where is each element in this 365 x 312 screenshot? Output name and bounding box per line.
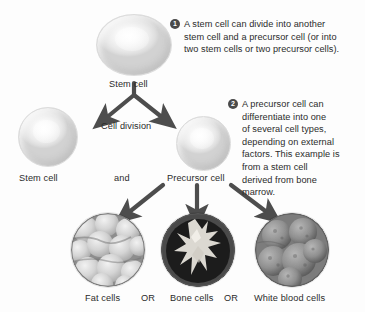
left-stem-cell-icon [18,107,78,167]
callout-2: 2 A precursor cell can differentiate int… [228,98,365,199]
callout-2-line-5: factors. This example is [242,148,365,161]
bone-cells-label: Bone cells [170,293,213,303]
callout-2-badge: 2 [228,99,238,109]
callout-2-line-3: of several cell types, [242,123,365,136]
top-stem-cell-label: Stem cell [109,79,148,89]
callout-1-badge: 1 [170,19,180,29]
callout-1-text: A stem cell can divide into another stem… [184,18,365,56]
callout-1-line-2: stem cell and a precursor cell (or into [184,31,365,44]
left-stem-cell-label: Stem cell [19,173,58,183]
callout-2-line-1: A precursor cell can [242,98,365,111]
cell-division-label: Cell division [101,121,151,131]
white-blood-cells-micrograph-icon [255,213,329,287]
stem-cell-differentiation-figure: Stem cell 1 A stem cell can divide into … [0,0,365,312]
callout-2-line-4: depending on external [242,136,365,149]
bone-cells-micrograph-icon [161,213,235,287]
white-blood-cells-label: White blood cells [254,293,325,303]
or-label-1: OR [141,293,155,303]
precursor-cell-icon [176,116,231,171]
or-label-2: OR [224,293,238,303]
fat-cells-micrograph-icon [71,213,145,287]
fat-cells-label: Fat cells [85,293,120,303]
and-label: and [114,173,130,183]
callout-1-line-3: two stem cells or two precursor cells). [184,43,365,56]
callout-2-line-6: from a stem cell [242,161,365,174]
precursor-cell-label: Precursor cell [167,173,225,183]
callout-1: 1 A stem cell can divide into another st… [170,18,365,56]
callout-2-line-7: derived from bone [242,174,365,187]
callout-2-line-2: differentiate into one [242,111,365,124]
top-stem-cell-icon [96,14,172,76]
callout-2-line-8: marrow. [242,186,365,199]
callout-1-line-1: A stem cell can divide into another [184,18,365,31]
callout-2-text: A precursor cell can differentiate into … [242,98,365,199]
